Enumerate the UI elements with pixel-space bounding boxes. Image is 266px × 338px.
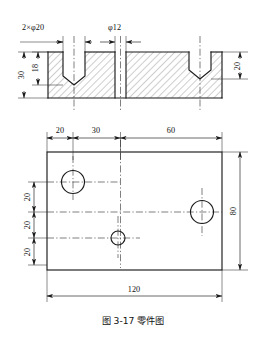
front-section-view: 2×φ20 φ12 30	[17, 23, 248, 112]
technical-drawing-page: 2×φ20 φ12 30	[0, 0, 266, 338]
dim-label-top-3: 60	[167, 126, 175, 135]
dim-label-top-2: 30	[92, 126, 100, 135]
dim-label-overall-height: 80	[229, 207, 238, 215]
dim-label-left-2: 20	[23, 221, 32, 229]
dim-label-left-1: 20	[23, 193, 32, 201]
dim-overall-height: 80	[222, 152, 248, 270]
dim-label-right-hole-depth: 20	[233, 62, 242, 70]
dim-label-left-hole-depth: 18	[31, 64, 40, 72]
dim-label-overall-width: 120	[128, 285, 141, 294]
dim-label-top-1: 20	[56, 126, 64, 135]
dim-left-chain: 20 20 20	[23, 182, 47, 265]
dim-label-total-thickness: 30	[17, 71, 26, 79]
figure-caption: 图 3-17 零件图	[102, 315, 165, 326]
dim-total-thickness: 30	[17, 52, 48, 98]
dim-label-counterbore: 2×φ20	[22, 23, 44, 32]
drawing-canvas: 2×φ20 φ12 30	[0, 0, 266, 338]
dim-label-left-3: 20	[23, 248, 32, 256]
top-plan-view: 20 30 60 20 20 20	[23, 126, 248, 302]
dim-label-center-hole: φ12	[108, 23, 121, 32]
dim-counterbore-callout: 2×φ20	[20, 23, 92, 52]
dim-overall-width: 120	[47, 270, 222, 302]
dim-top-chain: 20 30 60	[47, 126, 222, 160]
